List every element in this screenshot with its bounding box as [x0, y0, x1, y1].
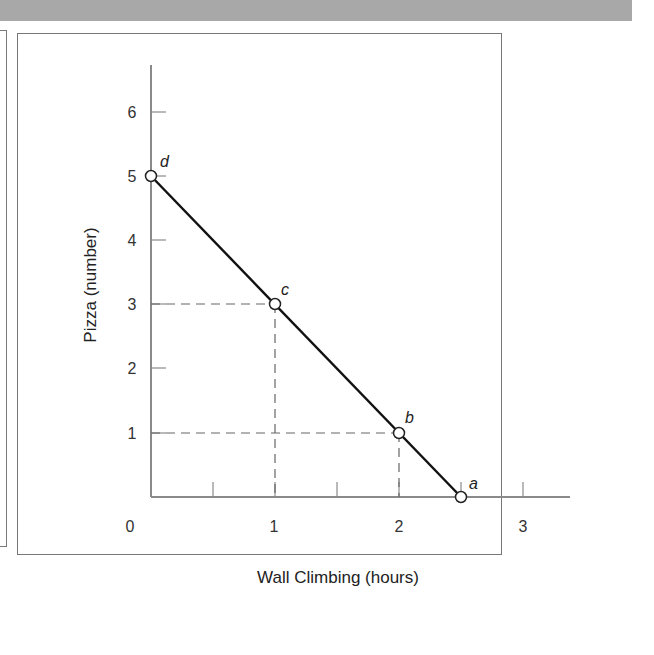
- x-axis-title: Wall Climbing (hours): [257, 568, 419, 587]
- point-d-label: d: [160, 153, 170, 170]
- svg-text:3: 3: [519, 518, 528, 535]
- x-tick-labels: 0 1 2 3: [126, 518, 528, 535]
- point-b: [394, 428, 405, 439]
- point-c-label: c: [281, 281, 289, 298]
- svg-text:3: 3: [128, 296, 137, 313]
- y-tick-labels: 6 5 4 3 2 1: [128, 104, 137, 442]
- ppf-chart: d c b a 6 5 4 3 2 1 0 1 2 3 Wall Climbin…: [0, 0, 654, 655]
- svg-text:2: 2: [395, 518, 404, 535]
- y-axis-title: Pizza (number): [81, 227, 100, 342]
- svg-text:4: 4: [128, 232, 137, 249]
- point-d: [146, 171, 157, 182]
- point-a-label: a: [469, 475, 478, 492]
- point-b-label: b: [405, 409, 414, 426]
- ppf-line: [151, 176, 461, 497]
- dashed-guides: [151, 304, 399, 497]
- svg-text:2: 2: [128, 360, 137, 377]
- svg-text:0: 0: [126, 518, 135, 535]
- point-c: [270, 299, 281, 310]
- svg-text:1: 1: [128, 425, 137, 442]
- point-a: [456, 492, 467, 503]
- svg-text:6: 6: [128, 104, 137, 121]
- svg-text:1: 1: [270, 518, 279, 535]
- svg-text:5: 5: [128, 168, 137, 185]
